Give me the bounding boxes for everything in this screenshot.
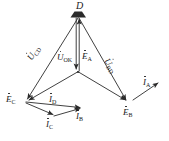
label-e-c-symbol: E [6, 95, 12, 104]
label-i-a: IA [143, 78, 150, 87]
center-junction-marker [77, 71, 79, 73]
label-e-a-symbol: E [82, 52, 88, 61]
label-i-c: IC [46, 120, 53, 129]
label-node-d: D [76, 1, 83, 11]
label-i-a-sub: A [146, 82, 150, 88]
label-i-b: IB [76, 112, 83, 121]
label-u-ok-symbol: U [57, 53, 64, 62]
phasor-diagram-figure: D UCD UOK EA UBD EC EB ID IC IB IA [0, 0, 169, 141]
label-e-b: EB [123, 108, 133, 117]
node-d-marker [71, 12, 87, 18]
label-e-c: EC [6, 95, 16, 104]
label-e-a: EA [82, 52, 92, 61]
label-e-c-sub: C [12, 99, 16, 105]
label-e-a-sub: A [88, 56, 92, 62]
label-u-ok: UOK [57, 53, 72, 62]
label-e-b-symbol: E [123, 108, 129, 117]
label-i-b-sub: B [79, 116, 83, 122]
label-i-c-sub: C [49, 124, 53, 130]
phasor-vector-canvas [0, 0, 169, 141]
label-u-ok-sub: OK [64, 57, 73, 63]
label-i-d: ID [49, 95, 56, 104]
label-i-d-sub: D [52, 99, 56, 105]
label-e-b-sub: B [129, 112, 133, 118]
